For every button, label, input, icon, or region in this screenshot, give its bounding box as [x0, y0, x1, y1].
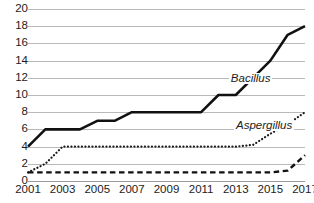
series-line-series-3: [28, 155, 305, 172]
x-axis-tick-label: 2007: [119, 184, 145, 196]
line-chart: BacillusAspergillus 02468101214161820 20…: [0, 0, 314, 203]
x-axis-tick-label: 2011: [189, 184, 214, 196]
y-axis-tick-label: 8: [4, 106, 28, 118]
series-group: [28, 9, 305, 181]
x-axis-tick-label: 2013: [223, 184, 249, 196]
y-axis-tick-label: 12: [4, 72, 28, 84]
y-axis-tick-label: 4: [4, 141, 28, 153]
x-axis-tick-label: 2017: [292, 184, 314, 196]
y-axis-tick-label: 6: [4, 124, 28, 136]
gridline-0: [28, 181, 305, 182]
y-axis-tick-label: 10: [4, 89, 28, 101]
y-axis-tick-label: 14: [4, 55, 28, 67]
x-axis-tick-label: 2005: [84, 184, 110, 196]
plot-area: BacillusAspergillus: [28, 9, 305, 181]
y-axis-tick-label: 18: [4, 20, 28, 32]
x-axis-tick-label: 2009: [154, 184, 180, 196]
y-axis-tick-label: 20: [4, 3, 28, 15]
x-axis-tick-label: 2003: [50, 184, 76, 196]
y-axis-tick-label: 16: [4, 38, 28, 50]
x-axis-tick-label: 2001: [15, 184, 41, 196]
series-label-bacillus: Bacillus: [229, 73, 273, 85]
series-label-aspergillus: Aspergillus: [234, 120, 294, 132]
y-axis-tick-label: 2: [4, 158, 28, 170]
x-axis-tick-label: 2015: [258, 184, 284, 196]
